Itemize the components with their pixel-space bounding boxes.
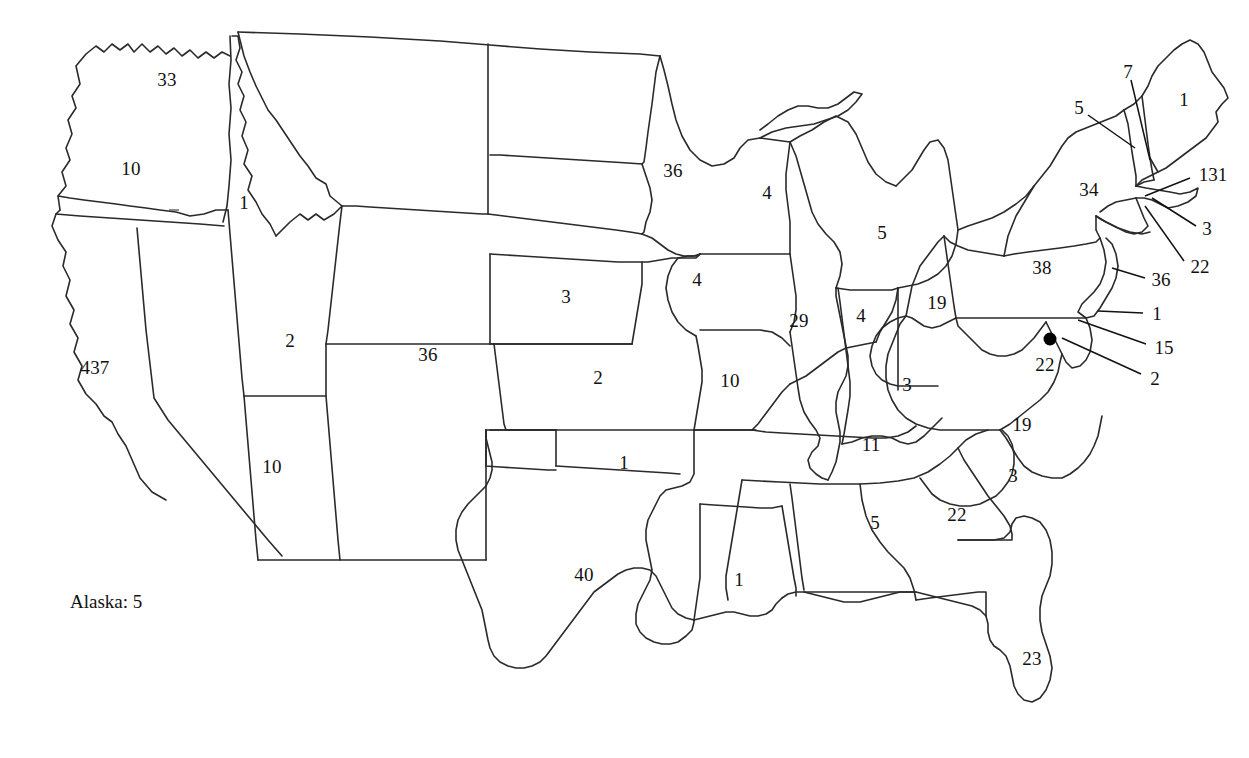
- callout-value-de: 1: [1152, 304, 1162, 323]
- state-value-fl: 23: [1022, 649, 1041, 668]
- state-value-ga: 22: [947, 505, 966, 524]
- state-value-sc: 3: [1008, 466, 1018, 485]
- callout-value-nh: 7: [1123, 62, 1133, 81]
- state-value-ny: 34: [1079, 180, 1098, 199]
- state-value-wa: 33: [157, 70, 176, 89]
- district-of-columbia-marker: [1044, 333, 1057, 346]
- state-value-tn: 11: [862, 435, 881, 454]
- state-value-pa: 38: [1032, 258, 1051, 277]
- callout-value-dc: 2: [1150, 369, 1160, 388]
- leader-line-vermont: [1088, 115, 1135, 148]
- state-value-in: 4: [856, 306, 866, 325]
- state-value-co: 36: [418, 345, 437, 364]
- leader-line-massachusetts: [1145, 178, 1190, 196]
- callout-leader-lines: [0, 0, 1249, 758]
- state-value-ky: 3: [902, 375, 912, 394]
- state-value-la: 1: [734, 570, 744, 589]
- state-value-mo: 10: [720, 371, 739, 390]
- leader-line-dc: [1062, 338, 1141, 374]
- state-value-wi: 4: [762, 183, 772, 202]
- state-value-ut: 2: [285, 331, 295, 350]
- callout-value-vt: 5: [1074, 98, 1084, 117]
- state-value-il: 29: [789, 311, 808, 330]
- state-value-ne: 3: [561, 287, 571, 306]
- state-value-va: 22: [1035, 355, 1054, 374]
- state-value-oh: 19: [927, 293, 946, 312]
- state-value-ok: 1: [619, 453, 629, 472]
- state-value-ca: 437: [80, 358, 109, 377]
- state-value-me: 1: [1179, 90, 1189, 109]
- alaska-note: Alaska: 5: [70, 591, 142, 613]
- us-map: 33 10 1 437 2 10 36 3 2 1 40 36 4 5 4 29…: [0, 0, 1249, 758]
- state-value-nc: 19: [1012, 415, 1031, 434]
- callout-value-nj: 36: [1152, 270, 1171, 289]
- state-value-or: 10: [121, 159, 140, 178]
- leader-line-maryland: [1078, 320, 1146, 344]
- leader-line-new-jersey: [1112, 268, 1145, 278]
- callout-value-ri: 3: [1202, 219, 1212, 238]
- state-value-ms: 5: [870, 513, 880, 532]
- leader-line-rhode-island: [1152, 198, 1196, 226]
- state-value-mn: 36: [663, 161, 682, 180]
- callout-value-ma: 131: [1199, 165, 1228, 184]
- stray-tick-artifact: [168, 206, 182, 214]
- state-value-id: 1: [239, 193, 249, 212]
- state-value-ks: 2: [593, 368, 603, 387]
- state-value-az: 10: [262, 457, 281, 476]
- callout-value-ct: 22: [1191, 257, 1210, 276]
- callout-value-md: 15: [1155, 338, 1174, 357]
- state-value-tx: 40: [574, 565, 593, 584]
- state-value-ia: 4: [692, 270, 702, 289]
- leader-line-delaware: [1098, 311, 1143, 313]
- state-value-mi: 5: [877, 223, 887, 242]
